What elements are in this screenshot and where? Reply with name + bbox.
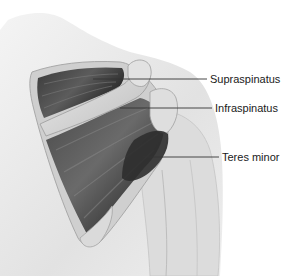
label-teres-minor: Teres minor	[222, 151, 279, 163]
label-supraspinatus: Supraspinatus	[210, 73, 280, 85]
shoulder-anatomy-illustration	[0, 0, 290, 276]
acromion	[128, 60, 151, 87]
label-infraspinatus: Infraspinatus	[215, 102, 278, 114]
